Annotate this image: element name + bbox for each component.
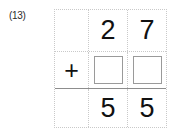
sum-row: 5 5 [55, 88, 166, 127]
operator-row: + [55, 51, 166, 88]
addend-tens-digit: 2 [100, 17, 115, 44]
sum-tens-cell: 5 [88, 89, 127, 127]
addend-tens-cell: 2 [88, 10, 127, 51]
plus-icon: + [64, 58, 79, 83]
addend-row: 2 7 [55, 10, 166, 51]
answer-box-ones[interactable] [133, 56, 162, 84]
vertical-addition-grid: 2 7 + 5 5 [54, 9, 167, 128]
addend-ones-digit: 7 [139, 17, 154, 44]
problem-number-label: (13) [9, 11, 26, 21]
sum-ones-cell: 5 [127, 89, 166, 127]
answer-ones-cell [127, 52, 166, 88]
sum-row-operator-cell [55, 89, 88, 127]
sum-ones-digit: 5 [139, 95, 154, 122]
sum-tens-digit: 5 [100, 95, 115, 122]
addend-ones-cell: 7 [127, 10, 166, 51]
answer-tens-cell [88, 52, 127, 88]
operator-cell: + [55, 52, 88, 88]
answer-box-tens[interactable] [94, 56, 123, 84]
addend-row-operator-cell [55, 10, 88, 51]
